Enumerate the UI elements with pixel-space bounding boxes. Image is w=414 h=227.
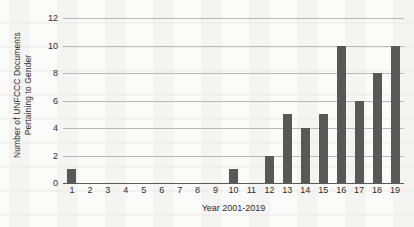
x-tick-label-19: 19	[390, 186, 400, 195]
gridline-y-12	[63, 18, 404, 19]
bar-14	[301, 128, 310, 183]
x-tick-label-14: 14	[300, 186, 310, 195]
gridline-y-2	[63, 156, 404, 157]
bar-16	[337, 46, 346, 184]
bar-19	[391, 46, 400, 184]
plot-area	[63, 18, 404, 183]
gridline-y-10	[63, 46, 404, 47]
y-axis-title-line-2: Pertaining to Gender	[23, 32, 34, 158]
gridline-y-8	[63, 73, 404, 74]
x-tick-label-13: 13	[282, 186, 292, 195]
x-tick-label-10: 10	[228, 186, 238, 195]
x-tick-label-4: 4	[123, 186, 128, 195]
gridline-y-4	[63, 128, 404, 129]
y-tick-label-12: 12	[48, 14, 58, 23]
x-tick-label-15: 15	[318, 186, 328, 195]
bar-17	[355, 101, 364, 184]
bar-13	[283, 114, 292, 183]
x-tick-label-12: 12	[264, 186, 274, 195]
x-tick-label-7: 7	[177, 186, 182, 195]
bar-15	[319, 114, 328, 183]
x-axis-title: Year 2001-2019	[63, 203, 404, 213]
y-tick-label-0: 0	[53, 179, 58, 188]
bar-1	[67, 169, 76, 183]
x-tick-label-1: 1	[69, 186, 74, 195]
bar-18	[373, 73, 382, 183]
x-tick-label-6: 6	[159, 186, 164, 195]
y-axis-title-line-1: Number of UNFCCC Documents	[12, 32, 23, 158]
x-tick-label-5: 5	[141, 186, 146, 195]
bar-12	[265, 156, 274, 184]
bar-10	[229, 169, 238, 183]
x-tick-label-2: 2	[87, 186, 92, 195]
x-tick-label-18: 18	[372, 186, 382, 195]
y-tick-label-8: 8	[53, 69, 58, 78]
y-tick-label-6: 6	[53, 96, 58, 105]
y-tick-label-4: 4	[53, 124, 58, 133]
x-tick-label-11: 11	[247, 186, 256, 195]
x-tick-label-16: 16	[336, 186, 346, 195]
gridline-y-6	[63, 101, 404, 102]
x-axis-tick-labels: 12345678910111213141516171819	[63, 186, 404, 200]
x-tick-label-8: 8	[195, 186, 200, 195]
y-axis-tick-labels: 024681012	[40, 18, 58, 183]
x-tick-label-17: 17	[354, 186, 364, 195]
x-tick-label-3: 3	[105, 186, 110, 195]
y-tick-label-10: 10	[48, 41, 58, 50]
bar-chart-figure: Number of UNFCCC Documents Pertaining to…	[0, 0, 414, 227]
x-tick-label-9: 9	[213, 186, 218, 195]
y-tick-label-2: 2	[53, 151, 58, 160]
